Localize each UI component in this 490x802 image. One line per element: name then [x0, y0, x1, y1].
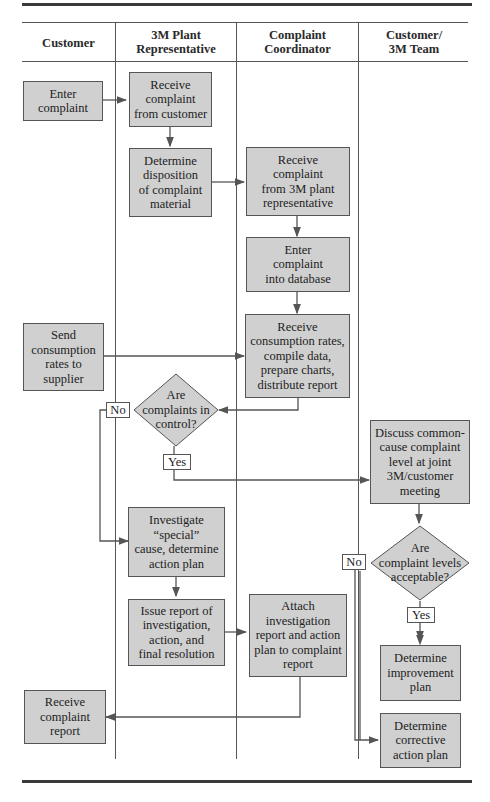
node-issue-report: Issue report of investigation, action, a…: [128, 599, 225, 666]
decision-complaints-in-control-text: Are complaints in control?: [133, 373, 219, 447]
edge-label-acceptable-no: No: [342, 554, 366, 570]
node-determine-disposition: Determine disposition of complaint mater…: [129, 148, 212, 217]
node-send-consumption-rates: Send consumption rates to supplier: [23, 323, 104, 391]
node-determine-corrective: Determine corrective action plan: [380, 713, 461, 768]
node-discuss-common-cause: Discuss common- cause complaint level at…: [370, 420, 470, 504]
node-enter-database: Enter complaint into database: [246, 237, 350, 292]
node-determine-improvement: Determine improvement plan: [380, 645, 461, 701]
bottom-rule: [22, 780, 472, 783]
node-investigate-special-cause: Investigate “special” cause, determine a…: [128, 507, 225, 577]
node-receive-consumption-rates: Receive consumption rates, compile data,…: [245, 314, 350, 398]
decision-levels-acceptable: Are complaint levels acceptable?: [370, 525, 470, 601]
node-receive-from-rep: Receive complaint from 3M plant represen…: [246, 147, 350, 216]
node-attach-report: Attach investigation report and action p…: [249, 594, 347, 677]
node-receive-complaint-report: Receive complaint report: [24, 690, 106, 744]
edge-label-acceptable-yes: Yes: [407, 607, 435, 623]
node-enter-complaint: Enter complaint: [23, 81, 103, 121]
decision-complaints-in-control: Are complaints in control?: [133, 373, 219, 447]
decision-levels-acceptable-text: Are complaint levels acceptable?: [370, 525, 470, 601]
node-receive-from-customer: Receive complaint from customer: [129, 72, 212, 127]
edge-label-control-yes: Yes: [163, 454, 191, 470]
edge-label-control-no: No: [106, 402, 130, 418]
